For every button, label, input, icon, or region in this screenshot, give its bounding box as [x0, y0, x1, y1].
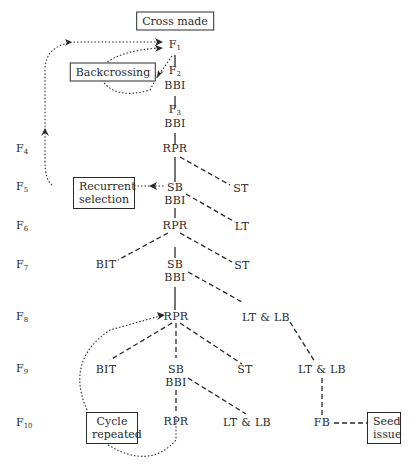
node-f1: F1 [169, 39, 182, 54]
seed-issue-label-2: issue [373, 428, 395, 441]
node-bbi-2: BBI [164, 118, 185, 130]
recurrent-selection-label-2: selection [79, 193, 129, 206]
cross-made-box: Cross made [136, 12, 214, 31]
node-ltlb-f10: LT & LB [223, 417, 271, 429]
gen-label-f4: F4 [16, 143, 28, 158]
gen-label-f10: F10 [16, 417, 33, 432]
node-fb-f10: FB [314, 417, 330, 429]
gen-label-f8: F8 [16, 311, 28, 326]
node-st-f5: ST [233, 183, 248, 195]
node-lt-f6: LT [235, 221, 249, 233]
connector-lines [0, 0, 418, 468]
backcrossing-box: Backcrossing [70, 63, 156, 82]
node-bit-f9: BIT [96, 364, 117, 376]
cross-made-label: Cross made [142, 15, 208, 28]
node-rpr-f8: RPR [164, 311, 189, 323]
node-st-f9: ST [237, 364, 252, 376]
node-st-f7: ST [234, 260, 249, 272]
backcrossing-label: Backcrossing [76, 66, 150, 79]
node-ltlb-f8: LT & LB [242, 312, 290, 324]
node-rpr-f4: RPR [163, 143, 188, 155]
seed-issue-box: Seed issue [367, 412, 401, 444]
node-bit-f7: BIT [96, 259, 117, 271]
node-rpr-f10: RPR [164, 416, 189, 428]
gen-label-f6: F6 [16, 220, 28, 235]
node-sb-f7: SB [167, 259, 183, 271]
node-f2: F2 [169, 65, 182, 80]
node-sb-f9: SB [168, 364, 184, 376]
node-bbi-1: BBI [164, 80, 185, 92]
gen-label-f5: F5 [16, 181, 28, 196]
recurrent-selection-label-1: Recurrent [79, 180, 129, 193]
gen-label-f7: F7 [16, 259, 28, 274]
node-bbi-f9: BBI [165, 377, 186, 389]
node-rpr-f6: RPR [163, 220, 188, 232]
cycle-repeated-label-2: repeated [92, 428, 132, 441]
node-bbi-f7: BBI [164, 272, 185, 284]
cycle-repeated-box: Cycle repeated [86, 412, 138, 444]
seed-issue-label-1: Seed [373, 415, 395, 428]
node-sb-f5: SB [167, 182, 183, 194]
gen-label-f9: F9 [16, 363, 28, 378]
node-ltlb-f9: LT & LB [298, 364, 346, 376]
breeding-scheme-diagram: Cross made Backcrossing Recurrent select… [0, 0, 418, 468]
cycle-repeated-label-1: Cycle [92, 415, 132, 428]
recurrent-selection-box: Recurrent selection [73, 177, 135, 209]
node-bbi-f5: BBI [164, 195, 185, 207]
